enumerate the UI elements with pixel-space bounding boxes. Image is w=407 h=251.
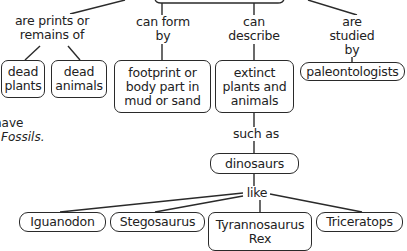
link-label-can-describe: can describe — [228, 15, 280, 43]
node-extinct-plants-and-animals: extinct plants and animals — [215, 60, 294, 113]
node-triceratops: Triceratops — [316, 212, 403, 232]
link-label-such-as: such as — [233, 127, 279, 141]
node-stegosaurus: Stegosaurus — [110, 212, 205, 232]
link-label-are-studied-by: are studied by — [325, 15, 380, 57]
node-dead-plants: dead plants — [1, 60, 45, 98]
node-paleontologists: paleontologists — [300, 62, 405, 81]
side-note-line2: Fossils. — [1, 130, 44, 144]
link-label-can-form-by: can form by — [136, 15, 190, 43]
node-tyrannosaurus-rex: Tyrannosaurus Rex — [208, 212, 312, 251]
link-label-are-prints-or-remains-of: are prints or remains of — [15, 14, 89, 42]
side-note-line1: have — [0, 116, 23, 130]
node-footprint-or-body-part: footprint or body part in mud or sand — [114, 60, 211, 113]
node-iguanodon: Iguanodon — [19, 212, 106, 232]
node-dead-animals: dead animals — [51, 60, 107, 98]
link-label-like: like — [247, 186, 268, 200]
node-dinosaurs: dinosaurs — [210, 153, 299, 174]
side-note-fossils: Fossils. — [1, 130, 44, 144]
